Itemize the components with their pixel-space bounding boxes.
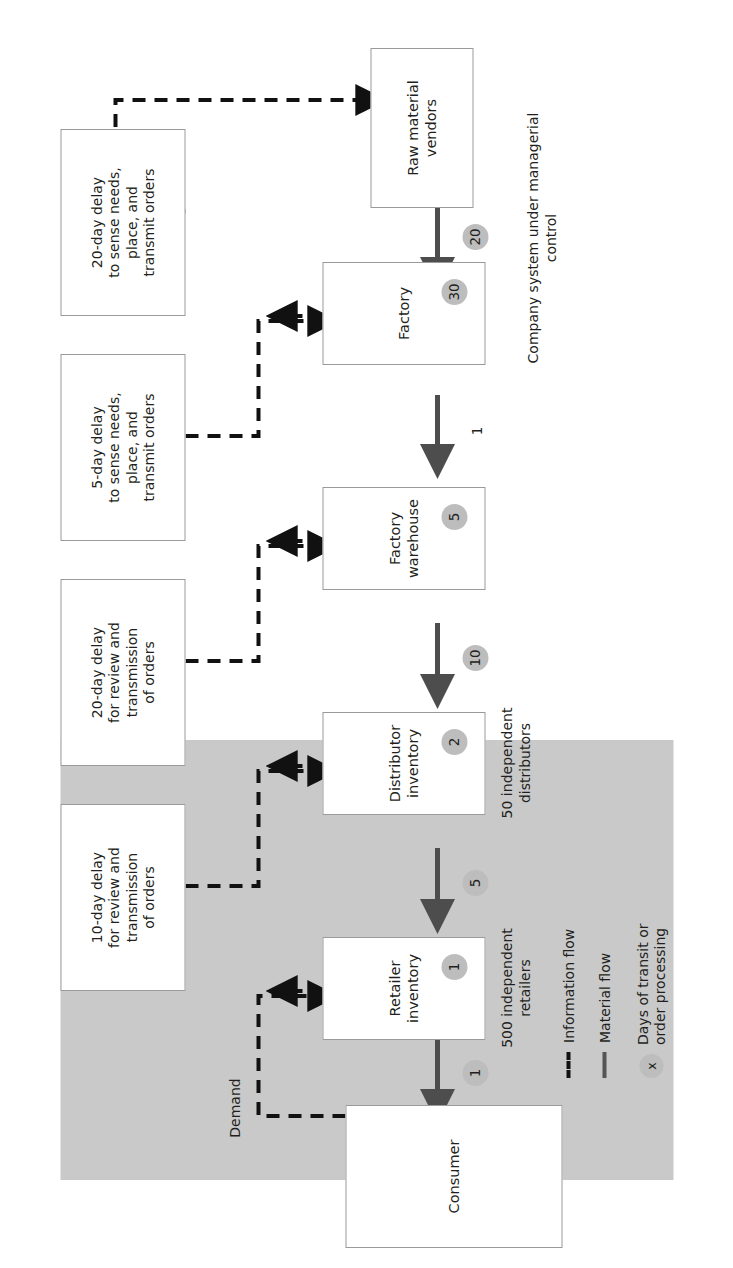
legend-item-transit-days: x Days of transit ororder processing <box>634 924 668 1078</box>
transit-days-icon-glyph: x <box>643 1062 658 1069</box>
node-delay-factory[interactable]: 20-day delayto sense needs,place, andtra… <box>60 129 185 316</box>
badge-flow-distributor-shipment-value: 10 <box>468 649 482 666</box>
badge-flow-vendor-shipment: 20 <box>462 224 488 250</box>
node-delay-distributor-label: 20-day delayfor review andtransmissionof… <box>88 622 158 723</box>
badge-flow-vendor-shipment-value: 20 <box>468 228 482 245</box>
edge-label-demand-text: Demand <box>226 1078 242 1137</box>
badge-retailer-inventory-days: 1 <box>441 954 467 980</box>
node-delay-warehouse-label: 5-day delayto sense needs,place, andtran… <box>88 392 158 502</box>
badge-factory-warehouse-value: 5 <box>447 513 461 522</box>
information-flow-icon <box>566 1052 570 1078</box>
node-retailer-inventory[interactable]: Retailerinventory <box>322 937 485 1040</box>
company-system-caption-text: Company system under managerialcontrol <box>524 113 558 364</box>
note-distributor-count: 50 independentdistributors <box>498 695 533 831</box>
badge-flow-consumer-shipment: 1 <box>462 1060 488 1086</box>
node-factory-label: Factory <box>395 287 413 340</box>
node-distributor-inventory[interactable]: Distributorinventory <box>322 712 485 815</box>
node-consumer[interactable]: Consumer <box>345 1105 562 1248</box>
node-retailer-inventory-label: Retailerinventory <box>386 954 421 1023</box>
badge-retailer-inventory-value: 1 <box>447 963 461 972</box>
badge-factory-days: 30 <box>441 279 467 305</box>
badge-flow-warehouse-shipment-value: 1 <box>470 427 484 436</box>
material-flow-icon <box>602 1052 606 1078</box>
node-raw-material-vendors[interactable]: Raw materialvendors <box>370 48 473 208</box>
note-retailer-count-text: 500 independentretailers <box>498 928 532 1048</box>
node-delay-factory-label: 20-day delayto sense needs,place, andtra… <box>88 167 158 277</box>
note-retailer-count: 500 independentretailers <box>498 920 533 1056</box>
figure-rotation-wrapper: Consumer Retailerinventory Distributorin… <box>0 0 733 1268</box>
badge-flow-consumer-shipment-value: 1 <box>468 1069 482 1078</box>
badge-distributor-inventory-value: 2 <box>447 738 461 747</box>
legend-item-material-flow-label: Material flow <box>596 953 613 1043</box>
node-delay-distributor[interactable]: 20-day delayfor review andtransmissionof… <box>60 579 185 766</box>
badge-flow-retailer-shipment-value: 5 <box>468 879 482 888</box>
badge-flow-warehouse-shipment: 1 <box>462 416 492 446</box>
legend-item-material-flow: Material flow <box>596 953 613 1078</box>
node-consumer-label: Consumer <box>445 1140 463 1214</box>
edge-label-demand: Demand <box>226 1068 244 1148</box>
node-delay-retailer-label: 10-day delayfor review andtransmissionof… <box>88 847 158 948</box>
badge-factory-value: 30 <box>447 283 461 300</box>
node-factory[interactable]: Factory <box>322 262 485 365</box>
node-factory-warehouse[interactable]: Factorywarehouse <box>322 487 485 590</box>
badge-flow-distributor-shipment: 10 <box>462 645 488 671</box>
node-raw-material-vendors-label: Raw materialvendors <box>404 80 439 176</box>
badge-flow-retailer-shipment: 5 <box>462 870 488 896</box>
node-distributor-inventory-label: Distributorinventory <box>386 725 421 802</box>
node-delay-warehouse[interactable]: 5-day delayto sense needs,place, andtran… <box>60 354 185 541</box>
note-distributor-count-text: 50 independentdistributors <box>498 708 532 819</box>
badge-distributor-inventory-days: 2 <box>441 729 467 755</box>
node-factory-warehouse-label: Factorywarehouse <box>386 499 421 578</box>
legend: Information flow Material flow x Days of… <box>560 748 710 1078</box>
company-system-caption: Company system under managerialcontrol <box>524 88 559 388</box>
node-delay-retailer[interactable]: 10-day delayfor review andtransmissionof… <box>60 804 185 991</box>
legend-item-information-flow: Information flow <box>560 929 577 1078</box>
diagram-canvas: Consumer Retailerinventory Distributorin… <box>0 0 733 1268</box>
transit-days-icon: x <box>639 1054 663 1078</box>
legend-item-information-flow-label: Information flow <box>560 929 577 1043</box>
badge-factory-warehouse-days: 5 <box>441 504 467 530</box>
legend-item-transit-days-label: Days of transit ororder processing <box>634 924 668 1045</box>
